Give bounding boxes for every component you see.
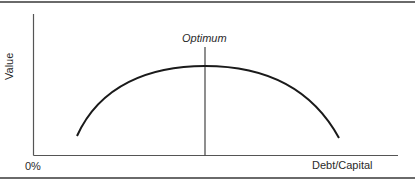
chart-plot [0,0,415,181]
value-curve [77,66,339,138]
x-axis-label: Debt/Capital [312,159,373,171]
origin-tick-label: 0% [25,160,41,172]
y-axis-label: Value [3,53,15,80]
optimum-label: Optimum [182,32,227,44]
